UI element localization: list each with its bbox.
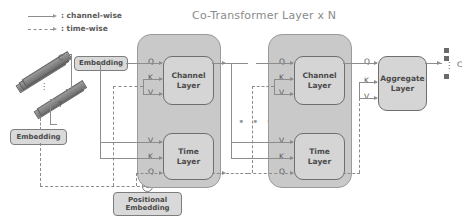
legend-solid-line [28,16,53,17]
input-slab-ellipsis: ⋮ [40,85,48,88]
posbus-to-time-q-1 [136,173,137,186]
time-embedding-down-connector [40,143,41,186]
positional-embedding-label-line2: Embedding [125,204,169,213]
positional-embedding-label-line1: Positional [128,196,167,205]
positional-embedding-box[interactable]: Positional Embedding [113,192,182,216]
aggregate-input-q: Q [364,57,370,66]
page-title: Co-Transformer Layer x N [192,9,336,22]
channel-layer-box-1[interactable]: Channel Layer [163,56,214,105]
time-layer-2-input-v: V [279,136,284,145]
aggregate-v-arrow [374,96,378,100]
channel-layer-label-line1: Channel [171,71,205,81]
channel-dimension-bracket [66,54,72,90]
channel-layer-label-line1: Channel [302,71,336,81]
channel-embedding-label: Embedding [79,59,123,68]
output-token-ellipsis: ⋮ [445,64,453,67]
time-layer-1-input-k: K [148,152,153,161]
feed-time-k-2 [231,158,293,159]
aggregate-layer-label-line2: Layer [391,84,414,94]
time-embedding-label: Embedding [16,133,60,142]
timewise-to-channel-kv-1 [113,86,143,87]
aggregate-input-v: V [364,92,369,101]
feed-time-k-1 [100,158,162,159]
time-v-arrow-2 [290,140,294,144]
legend-dashed-arrow-icon [53,27,57,31]
legend-solid-arrow-icon [53,14,57,18]
embedding-to-channel-q-1 [126,63,162,64]
time-layer-1-output-line [212,173,248,174]
aggregate-layer-label-line1: Aggregate [380,74,424,84]
output-token [444,48,449,53]
output-token [444,74,449,79]
time-k-arrow-1 [159,156,163,160]
channel-layer-2-input-k: K [279,73,284,82]
output-token-stack: ⋮ [444,48,454,84]
aggregate-q-arrow [374,61,378,65]
feed-channel-q-2 [256,63,293,64]
timewise-feed-2 [248,173,293,174]
time-layer-1-output-arrow [222,171,226,175]
time-k-arrow-2 [290,156,294,160]
channel-v-arrow-2 [290,92,294,96]
block2-channel-to-aggregate-q [343,63,377,64]
time-layer-label-line2: Layer [177,157,200,167]
channel-dimension-label: C [58,53,63,62]
output-channel-label: C [457,60,462,69]
time-layer-2-input-q: Q [279,167,285,176]
aggregate-layer-box[interactable]: Aggregate Layer [378,56,427,111]
channel-embedding-box[interactable]: Embedding [74,56,128,71]
channel-kv-bracket-2 [274,79,275,94]
time-layer-label-line2: Layer [308,157,331,167]
time-output-riser-to-aggregate [359,98,360,173]
time-layer-1-input-q: Q [148,167,154,176]
time-layer-1-input-v: V [148,136,153,145]
time-q-arrow-1 [159,171,163,175]
channel-layer-1-input-q: Q [148,57,154,66]
timewise-riser-2 [252,86,253,173]
aggregate-k-arrow [374,80,378,84]
channel-layer-label-line2: Layer [177,81,200,91]
legend-dashed-line [28,29,53,30]
time-dimension-label: T [58,100,63,109]
legend-label-channel-wise: : channel-wise [61,11,122,20]
aggregate-input-k: K [364,76,369,85]
channel-v-arrow-1 [159,92,163,96]
time-layer-box-1[interactable]: Time Layer [163,133,214,180]
time-q-arrow-2 [290,171,294,175]
positional-bus-line [40,186,145,187]
feed-time-v-1 [100,142,162,143]
aggregate-kv-bracket [359,82,360,98]
channel-layer-box-2[interactable]: Channel Layer [294,56,345,105]
slab-to-time-embedding-connector [40,118,41,130]
channel-k-arrow-2 [290,77,294,81]
timewise-riser-1 [113,86,114,186]
channel-layer-2-input-v: V [279,88,284,97]
time-layer-2-input-k: K [279,152,284,161]
channel-layer-label-line2: Layer [308,81,331,91]
channel-kv-bracket-1 [143,79,144,94]
channel-layer-2-input-q: Q [279,57,285,66]
block2-time-output-to-aggregate [343,173,360,174]
time-layer-box-2[interactable]: Time Layer [294,133,345,180]
channel-q-arrow-1 [159,61,163,65]
time-layer-label-line1: Time [309,147,330,157]
time-embedding-box[interactable]: Embedding [10,129,67,145]
channel-q-arrow-2 [290,61,294,65]
channel-layer-1-input-v: V [148,88,153,97]
timewise-to-channel-kv-2 [252,86,274,87]
time-dimension-bracket [50,99,57,125]
legend-label-time-wise: : time-wise [61,24,108,33]
channel-k-arrow-1 [159,77,163,81]
channel-layer-1-input-k: K [148,73,153,82]
feed-time-v-2 [231,142,293,143]
channelwise-down-riser-2 [231,63,232,158]
time-layer-label-line1: Time [178,147,199,157]
channel-layer-1-output-line [212,63,248,64]
channel-layer-1-output-arrow [222,61,226,65]
time-v-arrow-1 [159,140,163,144]
channelwise-down-riser-1 [100,63,101,158]
aggregate-output-arrow [437,61,441,65]
